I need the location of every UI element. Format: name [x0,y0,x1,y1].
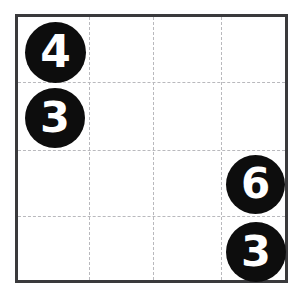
grid-line-vertical-3 [221,17,222,280]
cell-token-value: 3 [241,230,271,273]
cell-token-value: 6 [241,163,270,205]
grid-line-vertical-2 [153,17,154,280]
cell-token-r0-c0[interactable]: 4 [25,22,86,83]
grid-line-vertical-1 [89,17,90,280]
cell-token-r3-c3[interactable]: 3 [226,222,286,282]
puzzle-canvas: 4363 [0,0,300,296]
cell-token-value: 3 [40,96,70,139]
cell-token-r1-c0[interactable]: 3 [25,88,85,148]
cell-token-value: 4 [40,30,71,74]
grid-line-horizontal-3 [18,216,285,217]
grid-line-horizontal-2 [18,150,285,151]
puzzle-grid-frame: 4363 [15,14,288,283]
puzzle-grid-inner: 4363 [18,17,285,280]
cell-token-r2-c3[interactable]: 6 [226,155,285,214]
